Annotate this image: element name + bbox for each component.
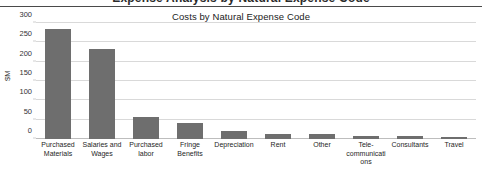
x-axis-label: Travel xyxy=(432,141,476,150)
bar[interactable] xyxy=(309,134,335,139)
y-tick-label: 150 xyxy=(19,68,32,77)
bar-slot xyxy=(256,23,300,139)
bar-chart: Costs by Natural Expense Code $M 3002502… xyxy=(0,8,482,175)
x-axis-label: Purchased Materials xyxy=(36,141,80,158)
bar-slot xyxy=(168,23,212,139)
bar[interactable] xyxy=(177,123,203,139)
y-tick-label: 50 xyxy=(24,106,32,115)
bar-slot xyxy=(124,23,168,139)
x-axis-labels: Purchased MaterialsSalaries and WagesPur… xyxy=(36,141,476,167)
x-axis-label: Salaries and Wages xyxy=(80,141,124,158)
clipped-header-text: Expense Analysis by Natural Expense Code xyxy=(0,0,482,5)
y-tick-label: 300 xyxy=(19,10,32,19)
bar-slot xyxy=(212,23,256,139)
bar[interactable] xyxy=(397,136,423,139)
y-axis-label: $M xyxy=(3,71,12,81)
bar[interactable] xyxy=(89,49,115,139)
bar[interactable] xyxy=(45,29,71,139)
bar-slot xyxy=(80,23,124,139)
x-axis-label: Rent xyxy=(256,141,300,150)
bar[interactable] xyxy=(221,131,247,139)
y-tick-label: 200 xyxy=(19,48,32,57)
bar[interactable] xyxy=(133,117,159,139)
bar[interactable] xyxy=(441,137,467,139)
x-axis-label: Fringe Benefits xyxy=(168,141,212,158)
x-axis-label: Purchased labor xyxy=(124,141,168,158)
bar-slot xyxy=(300,23,344,139)
plot-area: 300250200150100500 xyxy=(36,23,476,139)
y-tick-label: 100 xyxy=(19,87,32,96)
x-axis-label: Tele-communications xyxy=(344,141,388,167)
bar-slot xyxy=(388,23,432,139)
bar-series xyxy=(36,23,476,139)
y-tick-label: 0 xyxy=(28,126,32,135)
bar-slot xyxy=(432,23,476,139)
bar-slot xyxy=(344,23,388,139)
x-axis-label: Depreciation xyxy=(212,141,256,150)
chart-title: Costs by Natural Expense Code xyxy=(0,11,482,22)
x-axis-label: Other xyxy=(300,141,344,150)
header-divider xyxy=(0,6,482,7)
x-axis-label: Consultants xyxy=(388,141,432,150)
bar-slot xyxy=(36,23,80,139)
bar[interactable] xyxy=(265,134,291,139)
bar[interactable] xyxy=(353,136,379,139)
y-tick-label: 250 xyxy=(19,29,32,38)
